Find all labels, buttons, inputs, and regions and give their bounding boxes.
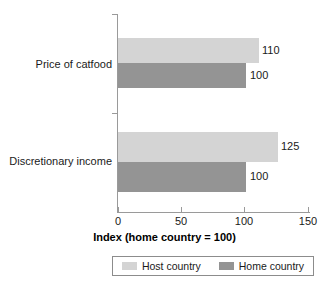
plot-area: [118, 14, 310, 213]
bar-home-price-of-catfood: [118, 63, 246, 88]
legend-swatch-home-country: [219, 262, 234, 270]
value-label-host-discretionary-income: 125: [281, 140, 299, 152]
legend-item-host-country: Host country: [122, 260, 201, 272]
x-axis-title: Index (home country = 100): [0, 231, 329, 243]
bar-home-discretionary-income: [118, 162, 246, 192]
chart-legend: Host country Home country: [112, 256, 314, 276]
bar-host-price-of-catfood: [118, 38, 259, 63]
legend-label-home-country: Home country: [239, 260, 304, 272]
category-label-price-of-catfood: Price of catfood: [0, 58, 112, 70]
x-tick-label-0: 0: [103, 215, 133, 227]
y-axis-tick-separator: [112, 113, 117, 114]
legend-swatch-host-country: [122, 262, 137, 270]
value-label-home-discretionary-income: 100: [250, 170, 268, 182]
category-label-discretionary-income: Discretionary income: [0, 155, 112, 167]
x-tick-label-50: 50: [166, 215, 196, 227]
bar-host-discretionary-income: [118, 132, 278, 162]
bar-chart: Price of catfood 110 100 Discretionary i…: [0, 0, 329, 290]
value-label-home-price-of-catfood: 100: [250, 69, 268, 81]
legend-label-host-country: Host country: [142, 260, 201, 272]
legend-item-home-country: Home country: [219, 260, 304, 272]
y-axis-tick-top: [112, 14, 117, 15]
x-tick-label-150: 150: [293, 215, 323, 227]
x-tick-label-100: 100: [229, 215, 259, 227]
value-label-host-price-of-catfood: 110: [262, 44, 280, 56]
